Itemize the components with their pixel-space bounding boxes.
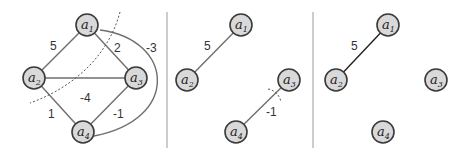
weight-a1-a2: 5: [351, 39, 358, 53]
node-a3: a3: [125, 67, 147, 89]
weight-a2-a3: -4: [80, 91, 91, 105]
node-a3: a3: [425, 69, 447, 91]
weight-a1-a2: 5: [50, 39, 57, 53]
node-a1: a1: [377, 14, 399, 36]
cut-mark: [268, 89, 281, 102]
weight-a1-a3: 2: [114, 41, 121, 55]
node-a2: a2: [325, 69, 347, 91]
panel-partial-graph: 5 -1 a1 a2 a3 a4: [176, 14, 300, 143]
node-a1: a1: [76, 14, 98, 36]
panel-final-graph: 5 a1 a2 a3 a4: [325, 14, 447, 143]
node-a1: a1: [230, 14, 252, 36]
panel-full-graph: 5 2 -3 -4 1 -1 a1 a2 a3 a4: [23, 12, 157, 143]
weight-a1-a4: -3: [146, 41, 157, 55]
node-a4: a4: [72, 121, 94, 143]
node-a3: a3: [278, 69, 300, 91]
graph-diagram: 5 2 -3 -4 1 -1 a1 a2 a3 a4 5 -1 a1: [0, 0, 471, 155]
weight-a3-a4: -1: [113, 107, 124, 121]
weight-a2-a4: 1: [48, 107, 55, 121]
node-a2: a2: [23, 67, 45, 89]
weight-a3-a4: -1: [266, 105, 277, 119]
node-a2: a2: [176, 69, 198, 91]
node-a4: a4: [372, 121, 394, 143]
node-a4: a4: [225, 121, 247, 143]
weight-a1-a2: 5: [204, 39, 211, 53]
